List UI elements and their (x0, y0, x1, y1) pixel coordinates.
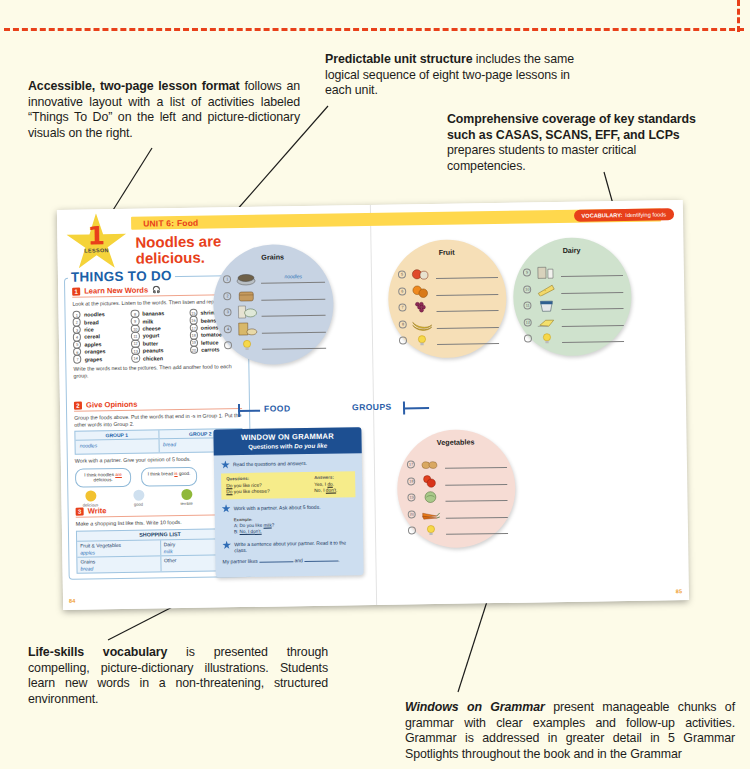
apples-icon (409, 267, 433, 281)
milk-carton-icon (534, 265, 558, 279)
word-label: lettuce (201, 339, 218, 345)
word-label: grapes (85, 356, 103, 362)
answer-2-em: don't (326, 488, 336, 493)
item-write-line[interactable] (436, 268, 498, 279)
banner-groups: GROUPS (352, 402, 392, 413)
item-write-line[interactable] (446, 524, 508, 535)
window-on-grammar-header: WINDOW ON GRAMMAR Questions with Do you … (213, 427, 361, 455)
item-write-line[interactable] (262, 289, 326, 300)
cereal-box-icon (235, 322, 259, 336)
callout-accessible-format-bold: Accessible, two-page lesson format (28, 79, 240, 93)
item-write-line[interactable] (445, 458, 507, 469)
word-label: cheese (142, 325, 160, 331)
blank-input-2[interactable] (304, 556, 338, 563)
item-number (224, 341, 233, 350)
item-write-line[interactable] (437, 301, 499, 312)
yogurt-cup-icon (535, 298, 559, 312)
food-circle-vegetables: Vegetables 17 18 19 20 (396, 429, 516, 549)
item-write-line[interactable] (446, 508, 508, 519)
circle-item-list: 5 6 7 8 (398, 265, 499, 349)
grammar-step-1-text: Read the questions and answers. (233, 460, 307, 467)
callout-life-skills-vocabulary: Life-skills vocabulary is presented thro… (28, 645, 328, 707)
item-write-line[interactable] (562, 316, 624, 327)
word-label: onions (201, 324, 219, 330)
word-label: chicken (143, 355, 163, 361)
activity-1-name: Learn New Words (84, 286, 148, 296)
item-write-line[interactable] (562, 332, 624, 343)
window-on-grammar-box: WINDOW ON GRAMMAR Questions with Do you … (213, 427, 363, 577)
food-bracket-line (238, 410, 260, 412)
partner-pre: My partner likes (222, 558, 259, 565)
item-write-line[interactable] (262, 339, 326, 350)
blank-input-1[interactable] (259, 557, 293, 564)
item-write-line[interactable] (437, 318, 499, 329)
lesson-number: 1 (65, 223, 127, 249)
item-number: 10 (523, 285, 532, 294)
circle-item: 11 (523, 296, 623, 314)
item-number (399, 336, 408, 345)
banner-food: FOOD (264, 403, 291, 413)
circle-title: Dairy (513, 246, 631, 256)
tomatoes-icon (418, 474, 442, 488)
word-label: oranges (84, 348, 105, 354)
circle-item: 12 (524, 313, 624, 331)
item-write-line[interactable] (437, 334, 499, 345)
page-number-left: 84 (69, 598, 75, 604)
callout-accessible-format: Accessible, two-page lesson format follo… (28, 79, 300, 141)
vocabulary-badge-text: Identifying foods (625, 211, 666, 218)
item-number (524, 335, 533, 344)
item-write-line[interactable] (562, 299, 624, 310)
callout-predictable-structure-bold: Predictable unit structure (325, 52, 473, 66)
face-delicious: delicious (77, 490, 103, 507)
callout-comprehensive-coverage-rest: prepares students to master critical com… (447, 143, 636, 173)
item-write-line[interactable] (446, 475, 508, 486)
lesson-star-badge: 1 LESSON (65, 213, 128, 274)
activity-2-name: Give Opinions (86, 400, 138, 410)
item-write-line[interactable] (562, 283, 624, 294)
item-write-line[interactable] (446, 491, 508, 502)
word-label: cereal (84, 334, 100, 340)
lesson-word: LESSON (65, 247, 127, 254)
window-on-grammar-body: Read the questions and answers. Question… (214, 453, 364, 571)
lightbulb-icon (410, 333, 434, 347)
circle-title: Vegetables (397, 438, 515, 448)
partner-post: . (338, 557, 339, 563)
answer-2-post: . (336, 488, 337, 493)
cheese-wedge-icon (534, 282, 558, 296)
circle-item: 8 (399, 315, 499, 333)
word-label: rice (84, 326, 94, 332)
group-1-value: noodles (76, 440, 159, 451)
word-item: 14chicken (132, 354, 183, 362)
subtitle-em: Do you like (294, 442, 327, 450)
word-label: noodles (84, 311, 105, 317)
item-number: 20 (408, 510, 417, 519)
item-write-line[interactable] (437, 285, 499, 296)
food-circle-grains: Grains 1 noodles 2 3 4 (212, 244, 334, 366)
shopping-cell-head: Dairy (164, 541, 176, 547)
item-write-line[interactable] (262, 322, 326, 333)
activity-2-instruction: Group the foods above. Put the words tha… (74, 412, 242, 428)
item-write-line[interactable] (262, 306, 326, 317)
circle-item (408, 521, 508, 539)
bubble-1-post: delicious. (94, 477, 113, 482)
red-dashed-top-border (4, 28, 744, 31)
circle-item: 4 (224, 319, 326, 337)
activity-3-name: Write (88, 506, 107, 515)
activity-2-header: 2 Give Opinions (74, 398, 242, 412)
item-number: 17 (407, 460, 416, 469)
shopping-cell-item: apples (80, 548, 157, 555)
lightbulb-icon (419, 523, 443, 537)
question-2-rest: you like cheese? (232, 489, 269, 495)
callout-windows-on-grammar-bold: Windows on Grammar (405, 700, 545, 714)
shopping-cell-item: bread (80, 564, 157, 571)
example-a-pre: A: Do you like (234, 523, 264, 528)
shopping-cell: Fruit & Vegetables apples (77, 540, 161, 556)
speech-bubble-2: I think bread is good. (141, 467, 197, 487)
speech-bubble-1: I think noodles are delicious. (75, 468, 131, 488)
answer-1-post: . (333, 481, 334, 486)
star-bullet-icon (221, 460, 230, 469)
shopping-cell-head: Grains (80, 558, 95, 564)
red-dashed-right-border (737, 0, 740, 32)
item-write-line[interactable] (561, 266, 623, 277)
lettuce-icon (419, 490, 443, 504)
